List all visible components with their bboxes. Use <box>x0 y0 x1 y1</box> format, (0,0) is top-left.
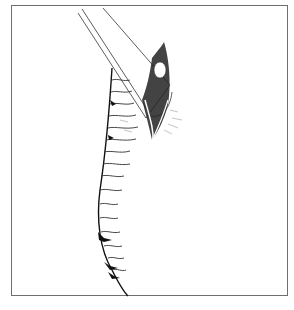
surgical-illustration <box>0 0 294 310</box>
tissue-edge <box>98 68 138 296</box>
